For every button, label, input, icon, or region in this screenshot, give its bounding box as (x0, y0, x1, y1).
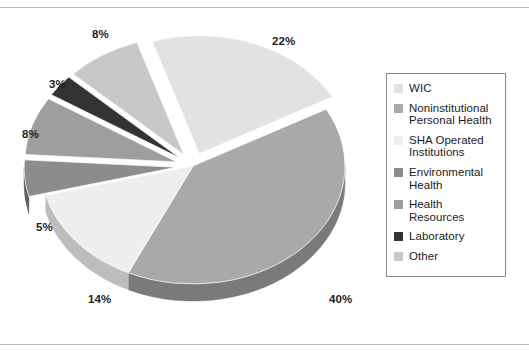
legend-item-label: Health Resources (409, 198, 499, 223)
legend-item[interactable]: Environmental Health (394, 166, 499, 191)
legend-item-label: SHA Operated Institutions (409, 134, 499, 159)
legend-item-label: Other (409, 250, 438, 263)
legend-item[interactable]: Health Resources (394, 198, 499, 223)
legend-swatch-icon (394, 168, 403, 177)
pct-40-label: 40% (329, 293, 352, 305)
legend-swatch-icon (394, 84, 403, 93)
chart-legend: WICNoninstitutional Personal HealthSHA O… (386, 73, 506, 277)
legend-item[interactable]: SHA Operated Institutions (394, 134, 499, 159)
legend-item[interactable]: Other (394, 250, 499, 263)
legend-swatch-icon (394, 104, 403, 113)
legend-item-label: Noninstitutional Personal Health (409, 102, 499, 127)
pct-14-label: 14% (88, 293, 111, 305)
legend-swatch-icon (394, 200, 403, 209)
legend-item[interactable]: Noninstitutional Personal Health (394, 102, 499, 127)
pct-22-label: 22% (272, 35, 295, 47)
legend-item[interactable]: WIC (394, 82, 499, 95)
pct-5-label: 5% (36, 221, 53, 233)
pie-chart-svg (0, 8, 380, 344)
legend-item[interactable]: Laboratory (394, 230, 499, 243)
legend-swatch-icon (394, 232, 403, 241)
bottom-divider-rule (0, 344, 529, 345)
pct-3-label: 3% (49, 78, 66, 90)
legend-item-label: Environmental Health (409, 166, 499, 191)
pct-8-left-label: 8% (22, 128, 39, 140)
legend-item-label: Laboratory (409, 230, 464, 243)
chart-page: 22%40%14%5%8%3%8% WICNoninstitutional Pe… (0, 0, 529, 350)
pct-8-top-label: 8% (92, 28, 109, 40)
pie-chart-area: 22%40%14%5%8%3%8% (0, 8, 380, 344)
legend-item-label: WIC (409, 82, 432, 95)
legend-swatch-icon (394, 136, 403, 145)
legend-swatch-icon (394, 252, 403, 261)
